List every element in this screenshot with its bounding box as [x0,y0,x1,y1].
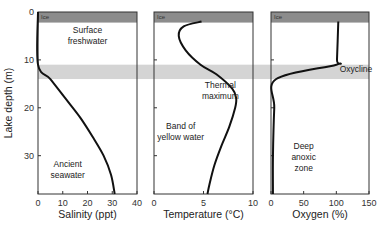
ice-band [154,12,253,23]
x-tick-label: 50 [299,198,309,208]
y-tick-label: 0 [29,7,34,17]
profile-line [179,22,237,194]
x-tick-label: 30 [107,198,117,208]
x-tick-label: 0 [35,198,40,208]
x-axis-label: Oxygen (%) [292,208,347,220]
annotation: Thermalmaximum [202,80,239,101]
x-axis-label: Temperature (°C) [163,208,244,220]
panel-1: Ice010203040Salinity (ppt)Surfacefreshwa… [35,12,142,220]
annotation: Ancientseawater [50,159,85,180]
ice-label: Ice [274,14,283,20]
ice-label: Ice [41,14,50,20]
annotation: Oxycline [340,64,373,74]
x-tick-label: 0 [151,198,156,208]
x-tick-label: 100 [329,198,344,208]
ice-label: Ice [157,14,166,20]
annotation: Deepanoxiczone [291,141,316,173]
x-tick-label: 5 [201,198,206,208]
y-tick-label: 20 [24,103,34,113]
x-tick-label: 150 [361,198,376,208]
y-axis-label: Lake depth (m) [2,68,14,139]
y-tick-label: 10 [24,55,34,65]
panel-frame [154,12,253,194]
panel-frame [271,12,369,194]
x-tick-label: 10 [248,198,258,208]
x-tick-label: 20 [82,198,92,208]
ice-band [271,12,369,23]
panel-3: Ice050100150Oxygen (%)OxyclineDeepanoxic… [268,12,376,220]
x-axis-label: Salinity (ppt) [58,208,116,220]
y-tick-label: 30 [24,151,34,161]
x-tick-label: 40 [132,198,142,208]
x-tick-label: 0 [268,198,273,208]
panel-2: Ice0510Temperature (°C)ThermalmaximumBan… [151,12,258,220]
annotation: Surfacefreshwater [68,25,108,46]
x-tick-label: 10 [58,198,68,208]
annotation: Band ofyellow water [157,121,204,142]
ice-band [38,12,137,23]
lake-profile-chart: Lake depth (m) 0102030Ice010203040Salini… [0,0,384,236]
